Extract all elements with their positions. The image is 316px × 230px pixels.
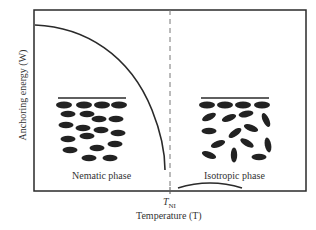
phase-diagram — [0, 0, 316, 230]
transition-temperature-label: TNI — [163, 196, 176, 210]
isotropic-curve — [178, 183, 242, 188]
x-axis-label: Temperature (T) — [136, 210, 202, 221]
nematic-phase-label: Nematic phase — [72, 170, 131, 181]
isotropic-molecules — [199, 98, 272, 163]
isotropic-phase-label: Isotropic phase — [204, 170, 265, 181]
tni-sub: NI — [169, 202, 176, 210]
nematic-molecules — [56, 98, 127, 161]
y-axis-label: Anchoring energy (W) — [17, 50, 28, 141]
